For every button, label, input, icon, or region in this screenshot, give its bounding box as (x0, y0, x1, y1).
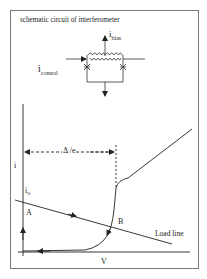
load-line (15, 200, 172, 244)
schematic-circuit (66, 36, 145, 96)
i0-label: io (25, 187, 30, 195)
bias-current-label: ibias (109, 30, 121, 39)
y-axis-label: i (14, 162, 16, 170)
delta-label: Δ /e (62, 147, 76, 155)
control-current-label: icontrol (38, 64, 58, 74)
point-b-label: B (118, 218, 123, 226)
point-a-label: A (26, 209, 32, 217)
load-line-label: Load line (155, 230, 184, 238)
x-axis-label: V (101, 258, 107, 266)
